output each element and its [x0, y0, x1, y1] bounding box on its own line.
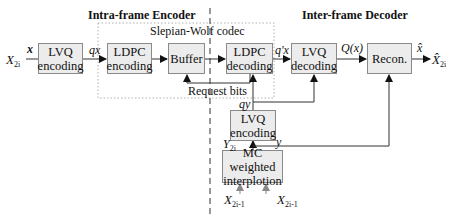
subscript: 2i-1: [232, 200, 245, 209]
y-signal-label: y: [276, 135, 281, 150]
symbol: X: [6, 52, 14, 67]
symbol: X̂: [432, 52, 440, 67]
block-label: encoding: [230, 126, 276, 140]
block-label: LDPC: [234, 45, 266, 59]
lvq-decoding-block: LVQ decoding: [291, 43, 337, 74]
block-label: encoding: [107, 59, 153, 73]
mc-interpolation-block: MC weighted interplotion: [222, 150, 283, 183]
block-label: decoding: [227, 59, 273, 73]
block-label: decoding: [291, 59, 337, 73]
block-label: LVQ: [241, 112, 266, 126]
input-frame-label: X2i: [6, 52, 20, 69]
side-lvq-encoding-block: LVQ encoding: [230, 110, 276, 141]
lvq-encoding-block: LVQ encoding: [38, 43, 83, 74]
Qx-signal-label: Q(x): [341, 41, 363, 56]
reconstruction-block: Recon.: [367, 43, 412, 74]
buffer-block: Buffer: [168, 43, 205, 74]
subscript: 2i: [440, 60, 446, 69]
output-frame-label: X̂2i: [432, 52, 446, 69]
q-prime-x-signal-label: q'x: [275, 43, 289, 58]
symbol: X: [277, 192, 285, 207]
block-label: interplotion: [223, 174, 281, 188]
prev-frame-label: X2i-1: [224, 192, 245, 209]
x-signal-label: x: [27, 42, 33, 57]
block-label: LVQ: [48, 45, 73, 59]
block-label: encoding: [38, 59, 84, 73]
ldpc-decoding-block: LDPC decoding: [226, 43, 273, 74]
qy-signal-label: qy: [239, 97, 250, 112]
block-label: Recon.: [372, 52, 407, 66]
block-label: LDPC: [114, 45, 146, 59]
subscript: 2i-1: [285, 200, 298, 209]
qx-signal-label: qx: [89, 43, 100, 58]
decoder-title: Inter-frame Decoder: [302, 8, 408, 23]
symbol: Y: [223, 137, 230, 151]
ldpc-encoding-block: LDPC encoding: [107, 43, 152, 74]
slepian-wolf-label: Slepian-Wolf codec: [150, 24, 245, 39]
next-frame-label: X2i-1: [277, 192, 298, 209]
subscript: 2i: [230, 144, 236, 153]
symbol: X: [224, 192, 232, 207]
x-hat-signal-label: x̂: [417, 41, 422, 56]
block-label: LVQ: [302, 45, 327, 59]
encoder-title: Intra-frame Encoder: [88, 8, 196, 23]
block-label: Buffer: [170, 52, 202, 66]
side-info-label: Y2i: [223, 137, 236, 153]
subscript: 2i: [14, 60, 20, 69]
